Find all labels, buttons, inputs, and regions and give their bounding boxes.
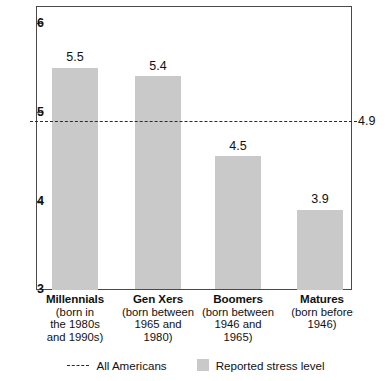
legend-label-reported-stress-level: Reported stress level [216, 359, 325, 372]
legend-item-reported-stress-level: Reported stress level [197, 359, 325, 372]
category-sub-boomers-1: (born between [198, 306, 278, 319]
category-sub-gen-xers-2: 1965 and [118, 318, 198, 331]
legend-label-all-americans: All Americans [96, 359, 166, 372]
category-sub-boomers-3: 1965) [198, 331, 278, 344]
chart-legend: All Americans Reported stress level [0, 356, 392, 374]
stress-level-bar-chart: 6 5 4 3 5.5 5.4 4.5 3.9 4.9 Millennials … [0, 0, 392, 381]
y-tick-label-4: 4 [26, 195, 44, 208]
category-name-millennials: Millennials [35, 293, 115, 306]
category-sub-matures-1: (born before [282, 306, 362, 319]
bar-matures [297, 210, 343, 290]
reference-line-all-americans [30, 121, 357, 122]
dashed-line-icon [67, 365, 89, 366]
category-sub-millennials-2: the 1980s [35, 318, 115, 331]
category-name-gen-xers: Gen Xers [118, 293, 198, 306]
bar-boomers [215, 156, 261, 289]
bar-swatch-icon [197, 359, 209, 371]
category-sub-matures-2: 1946) [282, 318, 362, 331]
category-name-matures: Matures [282, 293, 362, 306]
category-label-millennials: Millennials (born in the 1980s and 1990s… [35, 293, 115, 343]
category-sub-millennials-1: (born in [35, 306, 115, 319]
bar-value-matures: 3.9 [297, 193, 343, 206]
legend-item-all-americans: All Americans [67, 359, 166, 372]
category-sub-boomers-2: 1946 and [198, 318, 278, 331]
category-label-boomers: Boomers (born between 1946 and 1965) [198, 293, 278, 343]
category-label-gen-xers: Gen Xers (born between 1965 and 1980) [118, 293, 198, 343]
category-sub-gen-xers-1: (born between [118, 306, 198, 319]
bar-millennials [52, 68, 98, 290]
reference-line-label: 4.9 [358, 114, 375, 127]
bar-value-gen-xers: 5.4 [135, 60, 181, 73]
bar-gen-xers [135, 76, 181, 289]
category-name-boomers: Boomers [198, 293, 278, 306]
bar-value-millennials: 5.5 [52, 51, 98, 64]
category-sub-millennials-3: and 1990s) [35, 331, 115, 344]
category-label-matures: Matures (born before 1946) [282, 293, 362, 331]
category-sub-gen-xers-3: 1980) [118, 331, 198, 344]
bar-value-boomers: 4.5 [215, 140, 261, 153]
y-tick-label-5: 5 [26, 106, 44, 119]
y-tick-label-6: 6 [26, 17, 44, 30]
